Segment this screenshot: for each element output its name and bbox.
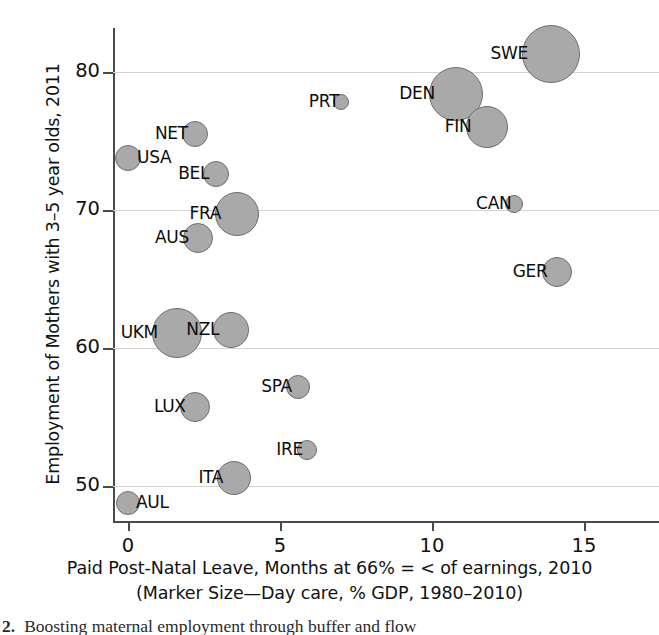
- plot-area: SWEDENFINPRTNETUSABELCANFRAAUSGERUKMNZLS…: [113, 28, 659, 521]
- bubble-label-swe: SWE: [491, 43, 528, 63]
- bubble-fra[interactable]: [215, 192, 259, 236]
- x-tick-label-5: 5: [250, 534, 310, 557]
- x-tick-label-0: 0: [98, 534, 158, 557]
- x-axis-spine: [113, 521, 659, 523]
- bubble-fin[interactable]: [466, 106, 508, 148]
- bubble-label-net: NET: [155, 123, 188, 143]
- figure-bubble-chart: Employment of Mothers with 3–5 year olds…: [0, 0, 659, 635]
- bubble-label-usa: USA: [137, 147, 171, 167]
- x-tick-0: [128, 521, 130, 531]
- bubble-label-lux: LUX: [154, 396, 186, 416]
- x-tick-15: [584, 521, 586, 531]
- y-tick-label-50: 50: [56, 473, 100, 496]
- caption-number: 2.: [2, 616, 15, 635]
- x-tick-5: [280, 521, 282, 531]
- caption-text: Boosting maternal employment through buf…: [24, 616, 416, 635]
- bubble-label-bel: BEL: [178, 163, 209, 183]
- x-tick-label-15: 15: [554, 534, 614, 557]
- bubble-label-ukm: UKM: [121, 322, 158, 342]
- y-axis-title: Employment of Mothers with 3–5 year olds…: [38, 14, 68, 534]
- y-tick-label-70: 70: [56, 197, 100, 220]
- bubble-swe[interactable]: [522, 25, 580, 83]
- gridline-y-50: [113, 486, 659, 487]
- bubble-label-spa: SPA: [261, 376, 292, 396]
- bubble-label-aus: AUS: [155, 227, 189, 247]
- bubble-label-ire: IRE: [276, 439, 303, 459]
- y-tick-label-80: 80: [56, 59, 100, 82]
- bubble-label-ita: ITA: [198, 467, 223, 487]
- bubble-label-nzl: NZL: [186, 319, 219, 339]
- x-tick-10: [432, 521, 434, 531]
- x-axis-title-line1: Paid Post-Natal Leave, Months at 66% = <…: [0, 556, 659, 581]
- x-axis-title-line2: (Marker Size—Day care, % GDP, 1980–2010): [0, 581, 659, 606]
- figure-caption: 2.Boosting maternal employment through b…: [0, 616, 659, 635]
- bubble-label-ger: GER: [513, 261, 548, 281]
- x-axis-title: Paid Post-Natal Leave, Months at 66% = <…: [0, 556, 659, 606]
- x-tick-label-10: 10: [402, 534, 462, 557]
- bubble-label-aul: AUL: [136, 492, 169, 512]
- y-tick-label-60: 60: [56, 335, 100, 358]
- bubble-label-prt: PRT: [309, 91, 339, 111]
- bubble-label-den: DEN: [399, 83, 435, 103]
- gridline-y-80: [113, 72, 659, 73]
- bubble-label-fin: FIN: [445, 116, 472, 136]
- bubble-label-fra: FRA: [189, 203, 221, 223]
- bubble-label-can: CAN: [476, 193, 511, 213]
